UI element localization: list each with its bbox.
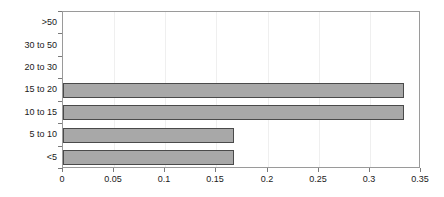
- x-axis-tick-mark: [215, 168, 216, 172]
- x-axis-ticks: [62, 168, 420, 173]
- x-axis-labels: 00.050.10.150.20.250.30.35: [0, 174, 444, 188]
- x-axis-tick-label: 0.3: [363, 174, 376, 185]
- y-axis-tick-label: 15 to 20: [0, 84, 57, 94]
- x-axis-tick-mark: [318, 168, 319, 172]
- x-axis-tick-label: 0.25: [309, 174, 327, 185]
- bar[interactable]: [63, 128, 234, 143]
- bar-row: [63, 124, 419, 146]
- x-axis-tick-mark: [420, 168, 421, 172]
- bar-row: [63, 12, 419, 34]
- y-axis-tick-label: <5: [0, 152, 57, 162]
- bar-row: [63, 34, 419, 56]
- y-axis-labels: >5030 to 5020 to 3015 to 2010 to 155 to …: [0, 11, 57, 168]
- bar-row: [63, 102, 419, 124]
- x-axis-tick-mark: [164, 168, 165, 172]
- y-axis-tick-label: >50: [0, 17, 57, 27]
- x-axis-tick-label: 0.35: [411, 174, 429, 185]
- bar[interactable]: [63, 83, 404, 98]
- y-axis-tick-label: 20 to 30: [0, 62, 57, 72]
- x-axis-tick-label: 0.1: [158, 174, 171, 185]
- bar-row: [63, 79, 419, 101]
- x-axis-tick-mark: [369, 168, 370, 172]
- x-axis-tick-mark: [113, 168, 114, 172]
- y-axis-tick-label: 10 to 15: [0, 107, 57, 117]
- bar[interactable]: [63, 150, 234, 165]
- plot-area: [62, 11, 420, 168]
- y-axis-tick-label: 30 to 50: [0, 40, 57, 50]
- bar-row: [63, 147, 419, 168]
- x-axis-tick-mark: [267, 168, 268, 172]
- x-axis-tick-label: 0.2: [261, 174, 274, 185]
- bar-chart: >5030 to 5020 to 3015 to 2010 to 155 to …: [0, 0, 444, 197]
- bars-layer: [63, 12, 419, 167]
- x-axis-tick-mark: [62, 168, 63, 172]
- y-axis-tick-label: 5 to 10: [0, 129, 57, 139]
- bar-row: [63, 57, 419, 79]
- x-axis-tick-label: 0: [59, 174, 64, 185]
- x-axis-tick-label: 0.05: [104, 174, 122, 185]
- x-axis-tick-label: 0.15: [206, 174, 224, 185]
- bar[interactable]: [63, 105, 404, 120]
